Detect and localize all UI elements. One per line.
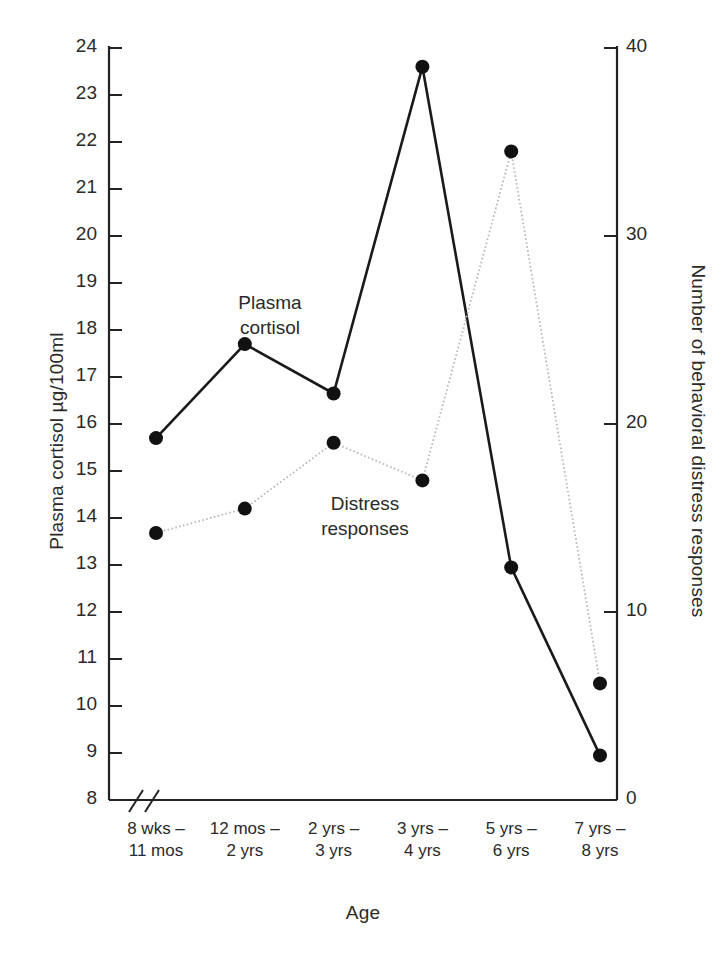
data-point-marker: [149, 431, 163, 445]
data-point-marker: [238, 502, 252, 516]
data-series-layer: [149, 60, 607, 763]
plot-area: [0, 0, 726, 962]
data-point-marker: [415, 60, 429, 74]
data-point-marker: [504, 560, 518, 574]
axis-tick-marks: [109, 48, 617, 753]
data-point-marker: [415, 473, 429, 487]
data-point-marker: [593, 676, 607, 690]
data-point-marker: [149, 526, 163, 540]
data-point-marker: [238, 337, 252, 351]
series-line: [156, 67, 600, 756]
data-point-marker: [593, 748, 607, 762]
chart-figure: Plasma cortisol µg/100ml Number of behav…: [0, 0, 726, 962]
data-point-marker: [504, 144, 518, 158]
data-point-marker: [327, 436, 341, 450]
axis-lines: [109, 46, 617, 800]
data-point-marker: [327, 387, 341, 401]
